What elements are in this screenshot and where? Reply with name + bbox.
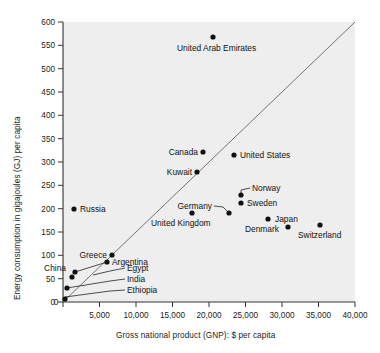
label-germany: Germany xyxy=(178,201,213,211)
label-japan: Japan xyxy=(275,214,298,224)
label-united-states: United States xyxy=(240,150,290,160)
ytick-label-250: 250 xyxy=(41,181,55,190)
xtick-label-25000: 25,000 xyxy=(233,311,258,320)
label-china: China xyxy=(44,263,66,273)
point-denmark[interactable] xyxy=(265,216,270,221)
point-japan[interactable] xyxy=(285,224,290,229)
label-norway: Norway xyxy=(252,183,281,193)
ytick-label-200: 200 xyxy=(41,205,55,214)
xtick-label-35000: 35,000 xyxy=(306,311,331,320)
label-switzerland: Switzerland xyxy=(298,230,342,240)
label-denmark: Denmark xyxy=(245,224,280,234)
point-china[interactable] xyxy=(69,274,74,279)
xtick-label-5000: 5,000 xyxy=(89,311,110,320)
ytick-label-100: 100 xyxy=(41,251,55,260)
xtick-label-15000: 15,000 xyxy=(160,311,185,320)
ytick-label-50: 50 xyxy=(46,275,56,284)
xtick-label-0: 0 xyxy=(54,298,59,307)
y-axis-title: Energy consumption in gigajoules (GJ) pe… xyxy=(13,116,22,300)
x-axis-title: Gross national product (GNP): $ per capi… xyxy=(116,331,275,340)
label-kuwait: Kuwait xyxy=(167,167,193,177)
point-india[interactable] xyxy=(64,285,69,290)
ytick-label-150: 150 xyxy=(41,228,55,237)
ytick-label-600: 600 xyxy=(41,18,55,27)
chart-canvas: 0 50 100 150 200 250 300 350 400 450 500… xyxy=(0,0,380,353)
label-egypt: Egypt xyxy=(127,263,149,273)
label-united-kingdom: United Kingdom xyxy=(151,218,211,228)
point-kuwait[interactable] xyxy=(194,169,199,174)
point-united-states[interactable] xyxy=(231,152,236,157)
label-sweden: Sweden xyxy=(247,198,278,208)
point-argentina[interactable] xyxy=(104,259,109,264)
point-russia[interactable] xyxy=(71,206,76,211)
label-russia: Russia xyxy=(80,204,106,214)
xtick-label-30000: 30,000 xyxy=(269,311,294,320)
label-canada: Canada xyxy=(169,147,199,157)
scatter-chart-figure: 0 50 100 150 200 250 300 350 400 450 500… xyxy=(0,0,380,353)
point-united-arab-emirates[interactable] xyxy=(210,34,215,39)
point-switzerland[interactable] xyxy=(317,222,322,227)
xtick-label-20000: 20,000 xyxy=(196,311,221,320)
point-germany[interactable] xyxy=(226,210,231,215)
ytick-label-450: 450 xyxy=(41,88,55,97)
x-axis-ticks xyxy=(63,302,355,307)
ytick-label-400: 400 xyxy=(41,111,55,120)
xtick-label-10000: 10,000 xyxy=(123,311,148,320)
ytick-label-300: 300 xyxy=(41,158,55,167)
point-sweden[interactable] xyxy=(238,200,243,205)
label-india: India xyxy=(127,274,146,284)
point-egypt[interactable] xyxy=(72,269,77,274)
ytick-label-350: 350 xyxy=(41,135,55,144)
label-ethiopia: Ethiopia xyxy=(127,285,158,295)
ytick-label-550: 550 xyxy=(41,41,55,50)
y-axis-ticks xyxy=(58,22,63,302)
label-greece: Greece xyxy=(80,250,108,260)
point-norway[interactable] xyxy=(238,192,243,197)
ytick-label-500: 500 xyxy=(41,65,55,74)
point-canada[interactable] xyxy=(200,149,205,154)
point-united-kingdom[interactable] xyxy=(189,210,194,215)
point-ethiopia[interactable] xyxy=(62,296,67,301)
label-united-arab-emirates: United Arab Emirates xyxy=(177,43,256,53)
xtick-label-40000: 40,000 xyxy=(342,311,367,320)
